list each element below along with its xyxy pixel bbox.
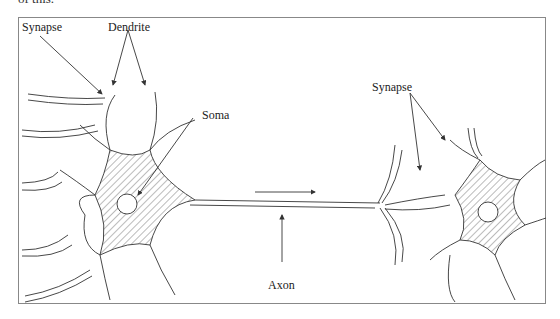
left-nucleus [117, 194, 137, 214]
label-synapse-right: Synapse [372, 80, 412, 95]
right-nucleus [478, 202, 498, 222]
label-axon: Axon [268, 278, 295, 293]
neuron-diagram [0, 0, 560, 319]
dendrite-bulb-top [106, 92, 157, 150]
label-dendrite: Dendrite [108, 20, 150, 35]
label-synapse-left: Synapse [22, 20, 62, 35]
label-soma: Soma [202, 108, 229, 123]
left-soma [95, 150, 195, 255]
axon [190, 200, 380, 208]
